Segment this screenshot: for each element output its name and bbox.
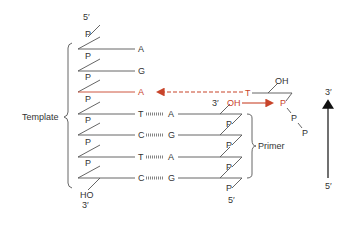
phosphate-label: P (85, 94, 91, 104)
template-base: T (138, 152, 144, 162)
direction-arrow: 3′ 5′ (325, 87, 332, 191)
phosphate-label: P (85, 51, 91, 61)
template-5prime-label: 5′ (83, 12, 90, 22)
hydrogen-bonds (146, 114, 164, 178)
primer-base: G (168, 173, 175, 183)
phosphate-label: P (226, 183, 232, 193)
primer-5prime-label: 5′ (228, 195, 235, 205)
primer-base: A (168, 109, 174, 119)
phosphate-label: P (85, 72, 91, 82)
template-base-target: A (138, 87, 144, 97)
direction-5prime-label: 5′ (325, 181, 332, 191)
dna-replication-diagram: 5′ P P P P P P P HO 3′ A G A T C T C A G… (0, 0, 340, 225)
incoming-phosphate: P (280, 98, 286, 108)
primer-base: A (168, 152, 174, 162)
phosphate-label: P (85, 137, 91, 147)
template-label: Template (22, 112, 59, 122)
primer-3prime-label: 3′ (212, 98, 219, 108)
direction-3prime-label: 3′ (325, 87, 332, 97)
template-base: C (138, 173, 145, 183)
incoming-base: T (245, 88, 251, 98)
template-base: G (138, 66, 145, 76)
incoming-phosphate: P (302, 128, 308, 138)
template-base: C (138, 130, 145, 140)
template-base: T (138, 109, 144, 119)
phosphate-label: P (85, 158, 91, 168)
template-3prime-label: 3′ (82, 200, 89, 210)
phosphate-label: P (226, 140, 232, 150)
phosphate-label: P (85, 29, 91, 39)
incoming-oh-label: OH (275, 76, 289, 86)
primer-brace (247, 114, 256, 178)
primer-strand (178, 104, 242, 188)
phosphate-label: P (85, 115, 91, 125)
phosphate-label: P (226, 119, 232, 129)
incoming-nucleotide: T OH P P P (245, 76, 308, 138)
primer-base: G (168, 130, 175, 140)
phosphate-label: P (226, 162, 232, 172)
template-brace (64, 43, 72, 188)
primer-label: Primer (258, 141, 285, 151)
template-base: A (138, 44, 144, 54)
primer-oh-label: OH (227, 98, 241, 108)
template-ho-label: HO (80, 190, 94, 200)
incoming-phosphate: P (291, 113, 297, 123)
